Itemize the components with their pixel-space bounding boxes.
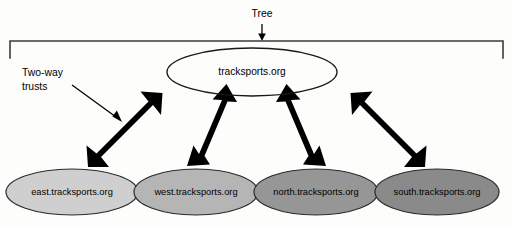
east-ellipse-label: east.tracksports.org xyxy=(31,187,113,197)
tree-diagram: Tree Two-way trusts upper-right --> lowe… xyxy=(0,0,513,227)
node-north-tracksports-org[interactable]: north.tracksports.org xyxy=(254,169,378,215)
two-way-arrow-north xyxy=(276,84,326,166)
tree-label: Tree xyxy=(252,8,273,19)
west-ellipse-label: west.tracksports.org xyxy=(153,187,237,197)
tree-scope-bracket xyxy=(10,41,503,58)
north-ellipse-label: north.tracksports.org xyxy=(273,187,358,197)
diagram-canvas: Tree Two-way trusts upper-right --> lowe… xyxy=(0,0,513,227)
two-way-arrow-south xyxy=(351,92,427,168)
two-way-trusts-label-line2: trusts xyxy=(22,81,47,92)
node-west-tracksports-org[interactable]: west.tracksports.org xyxy=(134,169,258,215)
root-ellipse-label: tracksports.org xyxy=(218,66,286,77)
two-way-arrow-west xyxy=(187,84,237,166)
south-ellipse-label: south.tracksports.org xyxy=(394,187,481,197)
two-way-arrow-east xyxy=(87,92,163,168)
node-east-tracksports-org[interactable]: east.tracksports.org xyxy=(6,169,138,215)
node-south-tracksports-org[interactable]: south.tracksports.org xyxy=(375,169,499,215)
down-arrow-icon xyxy=(258,24,266,41)
node-tracksports-org[interactable]: tracksports.org xyxy=(167,48,337,96)
diagonal-arrow-icon xyxy=(72,85,122,122)
two-way-trusts-label-line1: Two-way xyxy=(22,67,64,78)
